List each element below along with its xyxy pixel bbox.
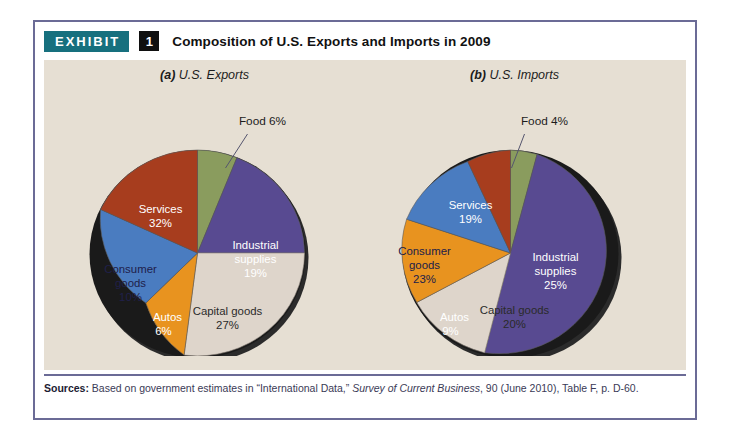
pie-wrap-imports: Services 19% Industrial supplies 25% Cap… (392, 106, 637, 356)
exhibit-header: EXHIBIT 1 Composition of U.S. Exports an… (35, 22, 695, 60)
chart-caption-imports: (b) U.S. Imports (354, 68, 675, 82)
pie-svg-exports: Services 32% Industrial supplies 19% Cap… (82, 106, 327, 356)
pie-wrap-exports: Services 32% Industrial supplies 19% Cap… (82, 106, 327, 356)
chart-caption-text-b: U.S. Imports (486, 68, 559, 82)
chart-caption-prefix-a: (a) (160, 68, 175, 82)
label-industrial-line1: Industrial (532, 251, 578, 263)
label-consumer-line2: goods (114, 277, 145, 289)
label-consumer-value: 10% (119, 291, 142, 303)
label-services-name: Services (448, 199, 492, 211)
source-publication: Survey of Current Business (352, 382, 480, 394)
exhibit-number-badge: 1 (139, 31, 159, 51)
callout-food-label: Food 6% (238, 114, 286, 128)
label-industrial-line2: supplies (234, 253, 276, 265)
footer-divider (44, 374, 686, 376)
label-industrial-value: 25% (544, 279, 567, 291)
label-capital-goods-name: Capital goods (192, 305, 262, 317)
source-label: Sources: (44, 382, 89, 394)
label-services-name: Services (138, 203, 182, 215)
label-autos-value: 6% (155, 325, 171, 337)
label-services-value: 32% (149, 217, 172, 229)
chart-caption-text-a: U.S. Exports (175, 68, 249, 82)
source-text-part2: , 90 (June 2010), Table F, p. D-60. (480, 382, 639, 394)
exhibit-body-panel: (a) U.S. Exports (44, 60, 686, 370)
callout-food-label: Food 4% (520, 114, 568, 128)
label-capital-goods-value: 27% (216, 319, 239, 331)
pie-svg-imports: Services 19% Industrial supplies 25% Cap… (392, 106, 637, 356)
page-title: Composition of U.S. Exports and Imports … (172, 34, 490, 49)
label-industrial-line1: Industrial (232, 239, 278, 251)
label-industrial-line2: supplies (534, 265, 576, 277)
label-consumer-value: 23% (413, 273, 436, 285)
label-consumer-line1: Consumer (398, 245, 451, 257)
chart-caption-exports: (a) U.S. Exports (44, 68, 365, 82)
label-industrial-value: 19% (244, 267, 267, 279)
chart-us-exports: (a) U.S. Exports (44, 60, 365, 370)
chart-caption-prefix-b: (b) (470, 68, 486, 82)
exhibit-frame: EXHIBIT 1 Composition of U.S. Exports an… (33, 20, 697, 420)
label-autos-name: Autos (439, 311, 468, 323)
label-consumer-line2: goods (408, 259, 439, 271)
label-autos-value: 9% (442, 325, 458, 337)
chart-us-imports: (b) U.S. Imports (354, 60, 675, 370)
label-services-value: 19% (459, 213, 482, 225)
source-text-part1: Based on government estimates in “Intern… (89, 382, 352, 394)
exhibit-badge: EXHIBIT (44, 31, 129, 52)
label-capital-goods-name: Capital goods (479, 304, 549, 316)
label-autos-name: Autos (152, 311, 181, 323)
source-note: Sources: Based on government estimates i… (44, 382, 686, 396)
label-consumer-line1: Consumer (104, 263, 157, 275)
label-capital-goods-value: 20% (503, 318, 526, 330)
